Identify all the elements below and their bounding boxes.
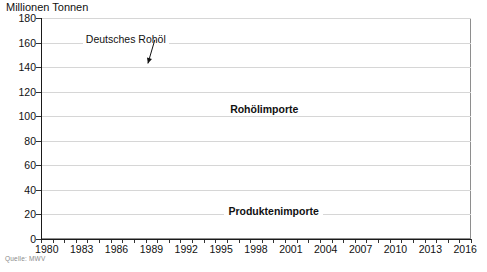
x-axis-line [41,239,471,240]
y-tick-label: 180 [6,13,36,23]
y-tick-label: 60 [6,160,36,170]
series-label-produktenimporte: Produktenimporte [224,204,322,218]
y-axis-line [41,18,42,240]
y-tick-label: 20 [6,209,36,219]
gridline [41,67,471,68]
gridline [41,116,471,117]
annotation-deutsches-rohoel: Deutsches Rohöl [83,33,169,45]
gridline [41,165,471,166]
y-tick-label: 80 [6,136,36,146]
x-tick-label: 2016 [445,244,485,255]
chart-container: Millionen Tonnen 02040608010012014016018… [0,0,487,272]
y-tick-label: 0 [6,234,36,244]
gridline [41,92,471,93]
series-label-rohoelimporte: Rohölimporte [226,102,302,116]
y-tick-label: 40 [6,185,36,195]
gridline [41,190,471,191]
y-tick-label: 100 [6,111,36,121]
y-tick-label: 140 [6,62,36,72]
source-note: Quelle: MWV [5,255,46,262]
y-tick-label: 160 [6,38,36,48]
gridline [41,18,471,19]
gridline [41,141,471,142]
y-tick-label: 120 [6,87,36,97]
